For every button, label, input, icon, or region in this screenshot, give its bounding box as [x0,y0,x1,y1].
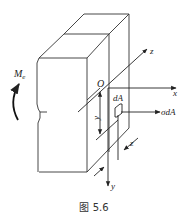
beam-diagram: Me O x z y z y dA σdA 图 5.6 [0,0,187,216]
origin-label: O [97,78,104,89]
front-left-edge [37,58,40,172]
y-dim-extension [96,120,118,140]
back-top-face [64,14,129,34]
z-axis-label: z [149,46,154,56]
figure-5-6: Me O x z y z y dA σdA 图 5.6 [0,0,187,216]
x-axis-label: x [172,88,177,98]
moment-arrow [13,84,19,120]
area-element-label: dA [113,93,124,103]
front-face [39,58,87,172]
area-element-square [115,104,122,117]
y-distance-label: y [91,116,101,121]
figure-caption: 图 5.6 [79,202,108,213]
z-distance-label: z [129,138,134,148]
moment-label: Me [13,68,25,81]
front-top-face [39,34,109,58]
stress-force-label: σdA [161,107,176,117]
y-axis-label: y [110,181,115,191]
z-dim-arrow-2 [94,167,104,176]
